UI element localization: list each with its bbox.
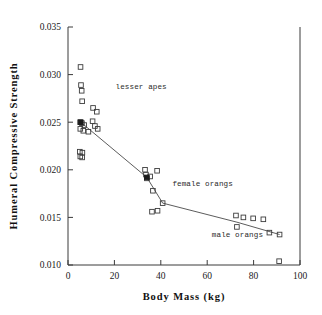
figure-container: 0.0100.0150.0200.0250.0300.035 020406080…: [0, 0, 322, 315]
x-tick-label: 40: [156, 271, 166, 281]
axis-frame-lines: [68, 27, 300, 265]
y-axis-title: Humeral Compressive Strength: [8, 62, 19, 229]
data-point: [78, 65, 83, 70]
trend-line: [81, 122, 280, 234]
data-point: [241, 215, 246, 220]
annotation-label: female orangs: [172, 180, 233, 188]
y-tick-label: 0.015: [40, 213, 62, 223]
y-tick-label: 0.030: [40, 70, 62, 80]
annotation-label: lesser apes: [116, 83, 167, 91]
y-tick-label: 0.035: [40, 22, 62, 32]
x-tick-label: 20: [110, 271, 120, 281]
annotation-label: male orangs: [212, 231, 263, 239]
data-point: [150, 209, 155, 214]
data-point-mean: [145, 175, 150, 180]
x-tick-label: 60: [202, 271, 212, 281]
x-tick-label: 100: [293, 271, 308, 281]
x-axis-ticks: [68, 260, 300, 265]
data-point: [143, 168, 148, 173]
data-point: [251, 216, 256, 221]
y-tick-label: 0.020: [40, 165, 62, 175]
data-point: [79, 83, 84, 88]
data-point: [277, 259, 282, 264]
y-axis-ticks: [68, 27, 73, 265]
y-tick-label: 0.010: [40, 260, 62, 270]
y-axis-tick-labels: 0.0100.0150.0200.0250.0300.035: [40, 22, 62, 270]
data-point-mean: [78, 120, 83, 125]
data-point: [261, 217, 266, 222]
data-point: [234, 213, 239, 218]
x-tick-label: 0: [66, 271, 71, 281]
x-axis-title: Body Mass (kg): [143, 291, 226, 303]
x-tick-label: 80: [249, 271, 259, 281]
y-tick-label: 0.025: [40, 118, 62, 128]
data-point: [80, 99, 85, 104]
data-point: [95, 127, 100, 132]
trend-polyline: [81, 122, 280, 234]
plot-frame: [68, 27, 300, 265]
data-point: [90, 119, 95, 124]
data-point: [93, 124, 98, 129]
x-axis-tick-labels: 020406080100: [66, 271, 308, 281]
data-point: [155, 168, 160, 173]
scatter-plot: 0.0100.0150.0200.0250.0300.035 020406080…: [0, 0, 322, 315]
data-point: [155, 208, 160, 213]
data-point: [79, 88, 84, 93]
data-point: [235, 225, 240, 230]
